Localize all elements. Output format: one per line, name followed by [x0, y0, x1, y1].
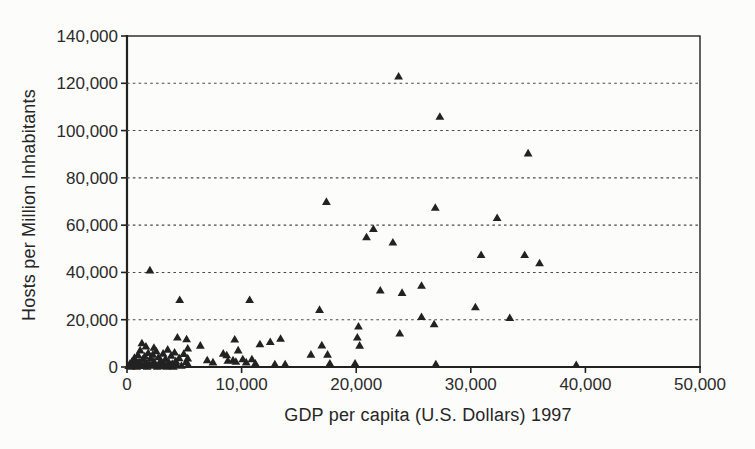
data-point [315, 305, 324, 313]
data-point [256, 340, 265, 348]
data-point [182, 335, 191, 343]
y-tick-label: 60,000 [66, 216, 118, 235]
data-point [323, 350, 332, 358]
data-point [398, 288, 407, 296]
data-point [520, 250, 529, 258]
data-point [524, 149, 533, 157]
data-point [431, 203, 440, 211]
data-point [150, 343, 159, 351]
y-axis-title: Hosts per Million Inhabitants [19, 89, 39, 321]
data-point [276, 334, 285, 342]
x-axis-title: GDP per capita (U.S. Dollars) 1997 [284, 405, 572, 425]
data-point [196, 341, 205, 349]
data-point [317, 341, 326, 349]
data-point [572, 360, 581, 368]
data-point [435, 112, 444, 120]
data-point [230, 335, 239, 343]
data-point [353, 333, 362, 341]
y-tick-label: 140,000 [57, 27, 118, 46]
data-point [322, 197, 331, 205]
data-point [362, 233, 371, 241]
data-point [477, 250, 486, 258]
data-point [395, 329, 404, 337]
data-point [505, 313, 514, 321]
x-tick-label: 10,000 [216, 375, 268, 394]
data-point [307, 350, 316, 358]
plot-border [127, 36, 700, 367]
data-point [430, 320, 439, 328]
data-point [281, 360, 290, 368]
data-point [175, 295, 184, 303]
scatter-chart: 50,00040,00030,00020,00010,0000140,00012… [0, 0, 755, 449]
data-point [355, 341, 364, 349]
x-tick-label: 20,000 [330, 375, 382, 394]
data-point [376, 286, 385, 294]
data-point [493, 213, 502, 221]
data-point [234, 346, 243, 354]
y-tick-label: 0 [109, 358, 118, 377]
data-point [535, 259, 544, 267]
data-point [431, 360, 440, 368]
y-tick-label: 120,000 [57, 74, 118, 93]
data-point [471, 303, 480, 311]
data-point [163, 345, 172, 353]
data-point [266, 338, 275, 346]
data-point [270, 360, 279, 368]
data-point [245, 295, 254, 303]
x-tick-label: 0 [122, 375, 131, 394]
y-tick-label: 40,000 [66, 263, 118, 282]
x-tick-label: 30,000 [445, 375, 497, 394]
data-point [173, 333, 182, 341]
data-point [417, 312, 426, 320]
data-point [203, 356, 212, 364]
data-point [354, 322, 363, 330]
y-tick-label: 20,000 [66, 311, 118, 330]
y-tick-label: 100,000 [57, 122, 118, 141]
data-point [325, 359, 334, 367]
data-point [351, 359, 360, 367]
data-point [146, 266, 155, 274]
y-tick-label: 80,000 [66, 169, 118, 188]
x-tick-label: 40,000 [559, 375, 611, 394]
data-point [417, 281, 426, 289]
data-point [394, 72, 403, 80]
plot-area: 50,00040,00030,00020,00010,0000140,00012… [0, 0, 755, 449]
data-point [388, 238, 397, 246]
data-point [183, 344, 192, 352]
x-tick-label: 50,000 [674, 375, 726, 394]
